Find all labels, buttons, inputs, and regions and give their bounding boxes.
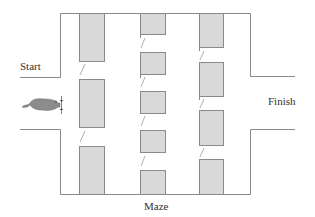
- column-3: [200, 14, 224, 195]
- finish-label: Finish: [268, 95, 296, 107]
- column-2-door-4: [141, 156, 145, 166]
- column-2-box-1: [141, 14, 166, 35]
- column-3-box-4: [200, 160, 224, 195]
- column-2-box-3: [141, 92, 166, 114]
- maze-diagram: [0, 0, 315, 217]
- column-1-door-1: [80, 64, 85, 75]
- column-2-box-2: [141, 53, 166, 75]
- mouse-icon: [22, 96, 63, 114]
- column-2: [141, 14, 166, 195]
- column-1-door-2: [80, 131, 85, 142]
- column-3-box-1: [200, 14, 224, 48]
- column-1-box-2: [80, 80, 105, 128]
- maze-caption: Maze: [144, 200, 168, 212]
- column-3-door-2: [200, 99, 204, 108]
- column-1-box-1: [80, 14, 105, 62]
- column-2-box-5: [141, 171, 166, 195]
- column-2-door-2: [141, 77, 145, 87]
- column-3-door-3: [200, 148, 204, 157]
- column-2-door-3: [141, 116, 145, 126]
- column-1-box-3: [80, 147, 105, 195]
- start-label: Start: [20, 60, 41, 72]
- column-3-box-2: [200, 63, 224, 97]
- column-2-door-1: [141, 38, 145, 48]
- column-3-door-1: [200, 51, 204, 60]
- column-3-box-3: [200, 111, 224, 146]
- column-2-box-4: [141, 131, 166, 153]
- column-1: [80, 14, 105, 195]
